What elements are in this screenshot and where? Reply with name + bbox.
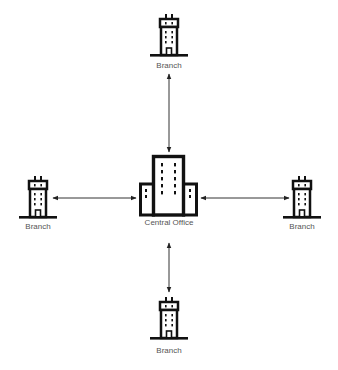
office-building-icon xyxy=(150,297,188,340)
office-building-icon xyxy=(283,176,321,219)
branch-bottom-node[interactable] xyxy=(150,297,188,340)
branch-top-node[interactable] xyxy=(150,14,188,57)
office-complex-icon xyxy=(141,157,197,216)
office-building-icon xyxy=(150,14,188,57)
branch-right-node[interactable] xyxy=(283,176,321,219)
central-office-node[interactable] xyxy=(141,157,197,216)
central-office-label: Central Office xyxy=(129,218,209,227)
branch-left-node[interactable] xyxy=(19,176,57,219)
office-building-icon xyxy=(19,176,57,219)
branch-top-label: Branch xyxy=(129,61,209,70)
branch-right-label: Branch xyxy=(262,222,338,231)
branch-bottom-label: Branch xyxy=(129,346,209,355)
branch-left-label: Branch xyxy=(0,222,78,231)
